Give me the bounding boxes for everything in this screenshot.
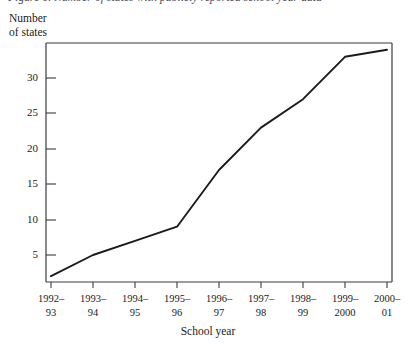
x-tick-label: 1995– 96 — [154, 292, 200, 320]
x-tick-label-line1: 1992– — [38, 293, 64, 304]
x-tick-label-line2: 97 — [196, 306, 242, 320]
x-tick-label-line2: 99 — [280, 306, 326, 320]
x-tick-label-line2: 96 — [154, 306, 200, 320]
x-tick-label-line2: 95 — [112, 306, 158, 320]
y-axis-ticks — [46, 78, 56, 255]
x-tick-label: 1994– 95 — [112, 292, 158, 320]
x-tick-label-line2: 93 — [28, 306, 74, 320]
x-tick-label-line1: 1993– — [80, 293, 106, 304]
x-tick-label: 1998– 99 — [280, 292, 326, 320]
y-tick-label: 15 — [8, 177, 38, 189]
x-tick-label-line1: 1994– — [122, 293, 148, 304]
x-tick-label: 2000– 01 — [364, 292, 410, 320]
x-tick-label-line1: 1996– — [206, 293, 232, 304]
data-series-line — [51, 50, 387, 277]
x-tick-label-line1: 1997– — [248, 293, 274, 304]
x-tick-label-line2: 01 — [364, 306, 410, 320]
x-axis-ticks — [51, 282, 387, 288]
x-tick-label-line1: 1995– — [164, 293, 190, 304]
x-tick-label: 1997– 98 — [238, 292, 284, 320]
x-tick-label-line2: 94 — [70, 306, 116, 320]
x-tick-label-line1: 1998– — [290, 293, 316, 304]
x-axis-title: School year — [0, 325, 416, 337]
x-tick-label: 1993– 94 — [70, 292, 116, 320]
x-tick-label-line2: 98 — [238, 306, 284, 320]
y-tick-label: 10 — [8, 213, 38, 225]
y-tick-label: 30 — [8, 71, 38, 83]
y-tick-label: 5 — [8, 248, 38, 260]
x-tick-label: 1999– 2000 — [322, 292, 368, 320]
x-tick-label-line2: 2000 — [322, 306, 368, 320]
y-tick-label: 25 — [8, 106, 38, 118]
x-tick-label: 1996– 97 — [196, 292, 242, 320]
figure-container: Figure 1. Number of states with publicly… — [0, 0, 416, 348]
y-tick-label: 20 — [8, 142, 38, 154]
x-tick-label-line1: 1999– — [332, 293, 358, 304]
x-tick-label-line1: 2000– — [374, 293, 400, 304]
x-tick-label: 1992– 93 — [28, 292, 74, 320]
